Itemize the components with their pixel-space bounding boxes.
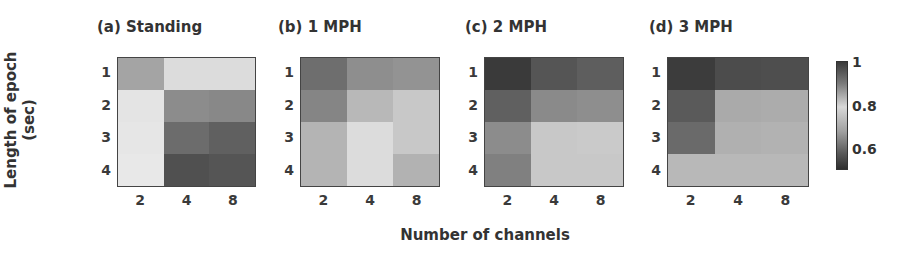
heatmap-cell xyxy=(209,154,255,186)
x-tick-label: 4 xyxy=(360,192,380,208)
heatmap-cell xyxy=(164,58,210,90)
heatmap-cell xyxy=(301,154,347,186)
heatmap-cell xyxy=(668,90,715,122)
x-tick-label: 8 xyxy=(591,192,611,208)
heatmap-cell xyxy=(301,122,347,154)
x-axis-label: Number of channels xyxy=(355,226,615,244)
y-tick-label: 3 xyxy=(464,129,478,145)
heatmap-cell xyxy=(715,58,762,90)
y-tick-label: 3 xyxy=(97,129,111,145)
heatmap-cell xyxy=(531,122,577,154)
colorbar-tick-0-6: 0.6 xyxy=(852,141,877,157)
x-tick-label: 8 xyxy=(407,192,427,208)
y-axis-label: Length of epoch (sec) xyxy=(2,40,38,200)
y-tick-label: 4 xyxy=(97,162,111,178)
heatmap-cell xyxy=(531,58,577,90)
y-tick-label: 4 xyxy=(647,162,661,178)
heatmap-cell xyxy=(301,58,347,90)
heatmap-cell xyxy=(485,154,531,186)
y-tick-label: 3 xyxy=(280,129,294,145)
heatmap-cell xyxy=(347,122,393,154)
x-tick-label: 4 xyxy=(728,192,748,208)
heatmap-cell xyxy=(485,90,531,122)
heatmap-cell xyxy=(209,122,255,154)
colorbar-tick-1: 1 xyxy=(852,54,862,70)
heatmap-cell xyxy=(577,90,623,122)
heatmap-cell xyxy=(761,58,808,90)
heatmap-cell xyxy=(164,154,210,186)
y-axis-label-line1: Length of epoch xyxy=(2,40,20,200)
heatmap-cell xyxy=(393,122,439,154)
heatmap-cell xyxy=(761,154,808,186)
heatmap-cell xyxy=(347,154,393,186)
heatmap-panel-1mph xyxy=(300,57,440,187)
panel-title-b: (b) 1 MPH xyxy=(278,18,362,36)
x-tick-label: 4 xyxy=(544,192,564,208)
x-tick-label: 2 xyxy=(497,192,517,208)
heatmap-panel-2mph xyxy=(484,57,624,187)
heatmap-cell xyxy=(164,90,210,122)
heatmap-cell xyxy=(577,122,623,154)
y-tick-label: 4 xyxy=(280,162,294,178)
heatmap-cell xyxy=(393,58,439,90)
y-tick-label: 1 xyxy=(647,64,661,80)
heatmap-cell xyxy=(531,154,577,186)
heatmap-cell xyxy=(393,90,439,122)
heatmap-cell xyxy=(393,154,439,186)
heatmap-cell xyxy=(118,90,164,122)
heatmap-cell xyxy=(761,122,808,154)
heatmap-cell xyxy=(715,122,762,154)
y-tick-label: 2 xyxy=(280,97,294,113)
heatmap-cell xyxy=(761,90,808,122)
heatmap-cell xyxy=(301,90,347,122)
y-tick-label: 2 xyxy=(464,97,478,113)
heatmap-cell xyxy=(577,58,623,90)
heatmap-cell xyxy=(118,58,164,90)
y-tick-label: 2 xyxy=(97,97,111,113)
heatmap-cell xyxy=(209,58,255,90)
heatmap-panel-3mph xyxy=(667,57,809,187)
y-tick-label: 1 xyxy=(280,64,294,80)
heatmap-cell xyxy=(118,122,164,154)
panel-title-a: (a) Standing xyxy=(97,18,202,36)
x-tick-label: 4 xyxy=(177,192,197,208)
heatmap-cell xyxy=(347,58,393,90)
heatmap-cell xyxy=(485,122,531,154)
heatmap-cell xyxy=(164,122,210,154)
heatmap-cell xyxy=(668,58,715,90)
colorbar-tick-0-8: 0.8 xyxy=(852,98,877,114)
heatmap-cell xyxy=(485,58,531,90)
x-tick-label: 2 xyxy=(130,192,150,208)
x-tick-label: 8 xyxy=(775,192,795,208)
heatmap-cell xyxy=(347,90,393,122)
heatmap-panel-standing xyxy=(117,57,256,187)
heatmap-cell xyxy=(668,122,715,154)
y-axis-label-line2: (sec) xyxy=(20,40,38,200)
panel-title-d: (d) 3 MPH xyxy=(649,18,733,36)
y-tick-label: 4 xyxy=(464,162,478,178)
heatmap-cell xyxy=(531,90,577,122)
heatmap-cell xyxy=(577,154,623,186)
y-tick-label: 3 xyxy=(647,129,661,145)
x-tick-label: 2 xyxy=(313,192,333,208)
y-tick-label: 2 xyxy=(647,97,661,113)
heatmap-cell xyxy=(715,90,762,122)
heatmap-cell xyxy=(715,154,762,186)
y-tick-label: 1 xyxy=(464,64,478,80)
x-tick-label: 2 xyxy=(681,192,701,208)
y-tick-label: 1 xyxy=(97,64,111,80)
colorbar xyxy=(836,61,848,170)
heatmap-cell xyxy=(668,154,715,186)
heatmap-cell xyxy=(118,154,164,186)
panel-title-c: (c) 2 MPH xyxy=(465,18,547,36)
heatmap-cell xyxy=(209,90,255,122)
x-tick-label: 8 xyxy=(223,192,243,208)
